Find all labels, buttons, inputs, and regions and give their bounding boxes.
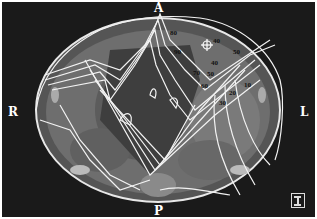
isodose-label: 50 [233,49,240,56]
isodose-label: 20 [229,90,236,97]
anterior-label: A [154,2,163,14]
isodose-label: 80 [170,30,177,37]
right-label: R [8,106,18,118]
ct-image-frame: A P R L 80 90 40 50 40 70 50 60 10 20 30 [0,0,317,219]
posterior-label: P [154,205,163,217]
ct-scan [2,2,315,217]
isodose-label: 30 [219,100,226,107]
isodose-label: 40 [211,60,218,67]
isodose-label: 50 [207,71,214,78]
isodose-label: 60 [201,83,208,90]
left-label: L [300,106,308,118]
isodose-label: 70 [193,70,200,77]
isodose-label: 40 [213,38,220,45]
ruler-scale-icon [291,193,305,208]
isodose-label: 90 [174,49,181,56]
ct-anatomy [2,2,315,217]
isodose-label: 10 [244,82,251,89]
